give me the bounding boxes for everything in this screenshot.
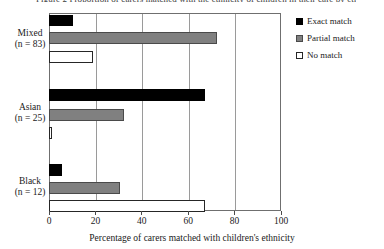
plot-area xyxy=(49,13,281,211)
figure-title: Figure 2 Proportion of carers matched wi… xyxy=(36,0,356,2)
legend-item-exact-match: Exact match xyxy=(296,14,384,29)
bar-asian-partial xyxy=(49,109,124,121)
x-tick-label-60: 60 xyxy=(173,215,203,227)
bar-mixed-exact xyxy=(49,15,73,26)
figure-bar-chart: Figure 2 Proportion of carers matched wi… xyxy=(0,0,384,249)
y-axis-label-black-name: Black xyxy=(1,176,59,187)
y-axis-label-black-count: (n = 12) xyxy=(1,187,59,198)
legend-label-exact-match: Exact match xyxy=(307,16,352,27)
bar-black-exact xyxy=(49,164,62,176)
x-tick-label-20: 20 xyxy=(80,215,110,227)
y-axis-label-black: Black (n = 12) xyxy=(1,176,59,198)
legend-label-partial-match: Partial match xyxy=(307,33,355,44)
bar-asian-nomatch xyxy=(49,127,52,139)
legend-swatch-exact-match-icon xyxy=(296,18,303,25)
x-tick-label-100: 100 xyxy=(266,215,296,227)
bar-black-nomatch xyxy=(49,200,205,212)
legend-swatch-no-match-icon xyxy=(296,52,303,59)
bar-black-partial xyxy=(49,182,120,194)
gridline-80 xyxy=(235,14,236,210)
x-tick-label-0: 0 xyxy=(34,215,64,227)
legend-item-no-match: No match xyxy=(296,48,384,63)
x-tick-label-40: 40 xyxy=(127,215,157,227)
legend: Exact match Partial match No match xyxy=(296,14,384,65)
y-axis-label-mixed: Mixed (n = 83) xyxy=(1,28,59,50)
legend-label-no-match: No match xyxy=(307,50,342,61)
bar-mixed-nomatch xyxy=(49,51,93,63)
y-axis-label-asian-name: Asian xyxy=(1,102,59,113)
bar-asian-exact xyxy=(49,89,205,101)
y-axis-label-asian-count: (n = 25) xyxy=(1,113,59,124)
x-tick-label-80: 80 xyxy=(220,215,250,227)
y-axis-label-asian: Asian (n = 25) xyxy=(1,102,59,124)
y-axis-label-mixed-count: (n = 83) xyxy=(1,39,59,50)
y-axis-label-mixed-name: Mixed xyxy=(1,28,59,39)
x-axis-title: Percentage of carers matched with childr… xyxy=(0,232,384,244)
legend-swatch-partial-match-icon xyxy=(296,35,303,42)
bar-mixed-partial xyxy=(49,32,217,44)
legend-item-partial-match: Partial match xyxy=(296,31,384,46)
